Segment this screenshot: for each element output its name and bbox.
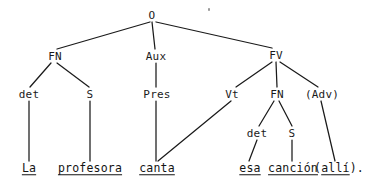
edge-fv-vt [236, 62, 272, 87]
edge-o-fn-subject [57, 22, 150, 49]
leaf-alli-close-paren: ). [350, 161, 364, 175]
leaf-alli: (allí). [314, 163, 364, 175]
node-adv: (Adv) [305, 89, 339, 100]
edge-fn-s [57, 63, 89, 87]
node-fn-object: FN [270, 89, 284, 100]
node-fv: FV [269, 50, 283, 61]
node-pres: Pres [143, 89, 170, 100]
leaf-cancion: canción [268, 163, 318, 175]
leaf-cancion-text: canción [268, 161, 318, 175]
edge-adv-alli [321, 101, 335, 161]
leaf-profesora: profesora [58, 163, 122, 175]
syntax-tree-diagram: O FN Aux FV det S Pres Vt FN (Adv) det S… [0, 0, 388, 186]
edge-o-fv [156, 22, 272, 48]
edge-o-aux [152, 22, 155, 49]
node-o: O [149, 10, 156, 21]
node-det-object: det [247, 128, 267, 139]
edge-fn-det [30, 63, 51, 87]
edge-vt-canta [158, 101, 231, 161]
node-fn-subject: FN [48, 51, 62, 62]
leaf-alli-text: allí [321, 161, 350, 175]
edge-fn-object-s2 [279, 101, 292, 126]
node-vt: Vt [225, 89, 239, 100]
edge-det2-esa [249, 140, 257, 161]
edge-fv-adv [280, 62, 318, 87]
node-s-subject: S [87, 89, 94, 100]
leaf-canta: canta [139, 163, 175, 175]
node-det-subject: det [19, 89, 39, 100]
node-aux: Aux [146, 51, 166, 62]
scan-speck [208, 8, 210, 11]
edge-fn-object-det2 [259, 101, 274, 126]
leaf-esa-text: esa [239, 161, 260, 175]
leaf-esa: esa [239, 163, 260, 175]
leaf-la-text: La [22, 161, 36, 175]
leaf-la: La [22, 163, 36, 175]
edge-fv-fn-object [276, 62, 277, 87]
node-s-object: S [289, 128, 296, 139]
leaf-profesora-text: profesora [58, 161, 122, 175]
leaf-canta-text: canta [139, 161, 175, 175]
